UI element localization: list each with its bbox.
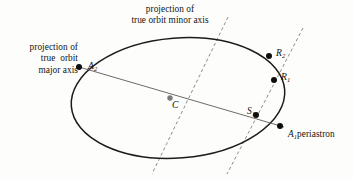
point-label-R2: R2 (276, 47, 285, 58)
periastron-caption: A1periastron (288, 129, 335, 140)
diagram-canvas (0, 0, 354, 180)
periastron-word: periastron (297, 129, 335, 139)
point-label-S1: S1 (247, 105, 255, 116)
minor-axis-projection-dashed-line (152, 17, 228, 174)
point-label-A2: A2 (88, 60, 97, 71)
projected-orbit-ellipse (67, 30, 290, 166)
point-R1 (271, 77, 277, 83)
major-axis-caption: projection of true orbit major axis (6, 42, 78, 76)
major-axis-line (79, 67, 284, 127)
point-R2 (266, 53, 272, 59)
orbit-projection-figure: projection of true orbit major axis proj… (0, 0, 354, 180)
point-label-R1: R1 (281, 71, 290, 82)
point-label-C: C (172, 99, 178, 110)
ellipse-outline (67, 30, 290, 166)
periastron-point-symbol: A1 (288, 129, 297, 139)
minor-axis-caption: projection of true orbit minor axis (110, 4, 230, 27)
point-A1 (277, 123, 283, 129)
apsidal-projection-dashed-line (227, 28, 303, 174)
major-axis-chord (79, 67, 284, 127)
